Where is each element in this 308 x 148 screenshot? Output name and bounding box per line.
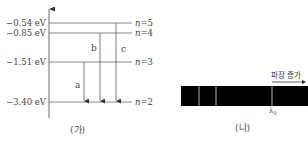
wavelength-arrow-icon (270, 79, 308, 85)
quantum-label-n5: n=5 (135, 18, 153, 28)
energy-label-n5: −0.54 eV (0, 18, 46, 28)
quantum-label-n3: n=3 (135, 57, 153, 67)
energy-label-n3: −1.51 eV (0, 57, 46, 67)
energy-label-n2: −3.40 eV (0, 97, 46, 107)
caption-ga: (가) (70, 123, 85, 136)
quantum-label-n2: n=2 (135, 97, 153, 107)
transition-label-b: b (91, 43, 97, 53)
caption-na: (나) (235, 121, 250, 134)
quantum-label-n4: n=4 (135, 28, 153, 38)
lambda0-label: λ0 (269, 107, 277, 116)
transition-label-c: c (121, 44, 126, 54)
energy-label-n4: −0.85 eV (0, 28, 46, 38)
spectrum-bar (181, 86, 308, 106)
transition-label-a: a (75, 80, 80, 90)
